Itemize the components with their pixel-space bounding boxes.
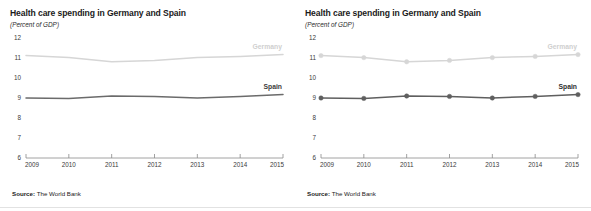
series-label-spain: Spain	[558, 83, 577, 91]
x-axis-tick-label: 2015	[565, 161, 580, 168]
data-point-germany	[576, 52, 580, 56]
y-axis-tick-label: 6	[312, 154, 316, 161]
series-line-spain	[26, 95, 283, 99]
y-axis-tick-label: 12	[14, 34, 22, 41]
source-note-right: Source: The World Bank	[307, 190, 376, 197]
y-axis-tick-label: 10	[309, 74, 317, 81]
x-axis-tick-label: 2013	[190, 161, 205, 168]
y-axis-tick-label: 7	[312, 134, 316, 141]
chart-panels: Health care spending in Germany and Spai…	[0, 0, 591, 211]
source-label: Source:	[12, 190, 35, 197]
bottom-divider	[0, 207, 591, 208]
x-axis-tick-label: 2015	[270, 161, 285, 168]
data-point-spain	[404, 94, 408, 98]
source-value: The World Bank	[37, 190, 81, 197]
source-value-right: The World Bank	[332, 190, 376, 197]
data-point-germany	[362, 55, 366, 59]
y-axis-tick-label: 11	[14, 54, 21, 61]
chart-subtitle-right: (Percent of GDP)	[305, 20, 582, 29]
data-point-germany	[404, 60, 408, 64]
data-point-germany	[319, 53, 323, 57]
y-axis-tick-label: 11	[309, 54, 316, 61]
series-label-germany: Germany	[253, 43, 283, 51]
plot-area-right: 12111098762009201020112012201320142015Ge…	[303, 32, 582, 180]
y-axis-tick-label: 8	[312, 114, 316, 121]
source-label-right: Source:	[307, 190, 330, 197]
page-title: Health care spending in Germany and Spai…	[10, 8, 287, 19]
data-point-germany	[490, 55, 494, 59]
data-point-spain	[447, 94, 451, 98]
data-point-spain	[490, 96, 494, 100]
line-chart-left: 12111098762009201020112012201320142015Ge…	[8, 32, 287, 180]
chart-panel-right: Health care spending in Germany and Spai…	[295, 0, 590, 211]
y-axis-tick-label: 10	[14, 74, 22, 81]
data-point-germany	[533, 54, 537, 58]
x-axis-tick-label: 2011	[400, 161, 414, 168]
series-line-germany	[26, 55, 283, 62]
series-label-spain: Spain	[263, 83, 282, 91]
data-point-spain	[319, 96, 323, 100]
x-axis-tick-label: 2009	[25, 161, 40, 168]
series-label-germany: Germany	[548, 43, 578, 51]
x-axis-tick-label: 2012	[147, 161, 162, 168]
data-point-germany	[447, 58, 451, 62]
x-axis-tick-label: 2010	[357, 161, 372, 168]
x-axis-tick-label: 2012	[442, 161, 457, 168]
chart-subtitle: (Percent of GDP)	[10, 20, 287, 29]
data-point-spain	[576, 92, 580, 96]
x-axis-tick-label: 2014	[233, 161, 248, 168]
y-axis-tick-label: 9	[17, 94, 21, 101]
x-axis-tick-label: 2010	[62, 161, 77, 168]
x-axis-tick-label: 2014	[528, 161, 543, 168]
plot-area-left: 12111098762009201020112012201320142015Ge…	[8, 32, 287, 180]
y-axis-tick-label: 9	[312, 94, 316, 101]
data-point-spain	[533, 94, 537, 98]
y-axis-tick-label: 6	[17, 154, 21, 161]
y-axis-tick-label: 7	[17, 134, 21, 141]
x-axis-tick-label: 2011	[105, 161, 119, 168]
x-axis-tick-label: 2009	[320, 161, 335, 168]
x-axis-tick-label: 2013	[485, 161, 500, 168]
page-title-right: Health care spending in Germany and Spai…	[305, 8, 582, 19]
y-axis-tick-label: 8	[17, 114, 21, 121]
y-axis-tick-label: 12	[309, 34, 317, 41]
chart-panel-left: Health care spending in Germany and Spai…	[0, 0, 295, 211]
source-note-left: Source: The World Bank	[12, 190, 81, 197]
line-chart-right: 12111098762009201020112012201320142015Ge…	[303, 32, 582, 180]
data-point-spain	[362, 96, 366, 100]
